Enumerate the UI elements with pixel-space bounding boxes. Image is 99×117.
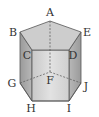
label-c: C: [23, 49, 31, 62]
label-h: H: [26, 102, 36, 115]
label-e: E: [83, 26, 91, 39]
label-i: I: [67, 102, 71, 115]
label-f: F: [46, 74, 54, 87]
label-g: G: [8, 77, 17, 90]
face-top-abcde: [20, 21, 81, 50]
label-d: D: [69, 49, 78, 62]
label-j: J: [83, 80, 88, 93]
label-a: A: [45, 6, 55, 19]
pentagonal-prism-diagram: A B C D E F G H I J: [0, 0, 99, 117]
label-b: B: [9, 26, 17, 39]
